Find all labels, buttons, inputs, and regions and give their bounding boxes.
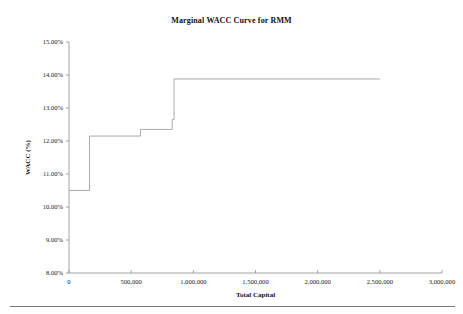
y-tick-label: 13.00% [43, 104, 64, 111]
y-tick-label: 15.00% [43, 38, 64, 45]
y-tick-label: 10.00% [43, 203, 64, 210]
y-axis-title: WACC (%) [24, 139, 32, 174]
y-tick-label: 11.00% [43, 170, 64, 177]
x-tick-label: 1,000,000 [180, 278, 207, 285]
y-tick-label: 9.00% [46, 236, 64, 243]
y-tick-label: 14.00% [43, 71, 64, 78]
x-tick-label: 1,500,000 [242, 278, 269, 285]
footer-divider [10, 306, 455, 307]
chart-figure: Marginal WACC Curve for RMM 8.00%9.00%10… [0, 0, 463, 314]
y-axis-tick-group: 8.00%9.00%10.00%11.00%12.00%13.00%14.00%… [43, 38, 69, 276]
x-tick-label: 0 [67, 278, 71, 285]
x-tick-label: 3,000,000 [429, 278, 456, 285]
x-tick-label: 2,000,000 [304, 278, 331, 285]
x-axis-title: Total Capital [236, 291, 275, 299]
y-tick-label: 8.00% [46, 269, 64, 276]
chart-plot-area: 8.00%9.00%10.00%11.00%12.00%13.00%14.00%… [0, 0, 463, 314]
wacc-step-curve [69, 79, 380, 191]
y-tick-label: 12.00% [43, 137, 64, 144]
x-tick-label: 2,500,000 [367, 278, 394, 285]
x-tick-label: 500,000 [120, 278, 142, 285]
x-axis-tick-group: 0500,0001,000,0001,500,0002,000,0002,500… [67, 270, 456, 285]
